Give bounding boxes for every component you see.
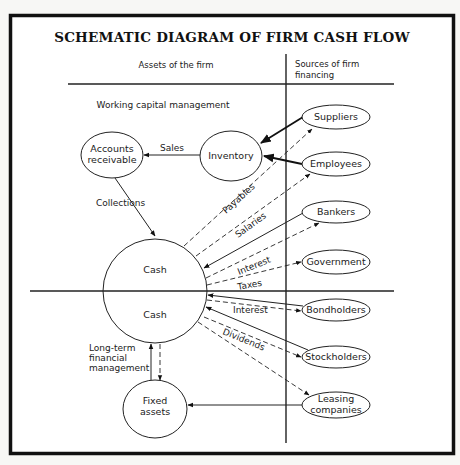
section-label-long-term-3: management: [89, 363, 150, 373]
section-label-working-capital: Working capital management: [97, 100, 230, 110]
section-label-long-term-2: financial: [89, 353, 127, 363]
node-bankers: Bankers: [302, 201, 370, 223]
column-header-sources-line2: financing: [295, 70, 334, 80]
node-label: Inventory: [208, 150, 254, 161]
diagram-title: SCHEMATIC DIAGRAM OF FIRM CASH FLOW: [54, 29, 410, 45]
node-label: receivable: [87, 154, 136, 165]
diagram-frame: [11, 16, 454, 454]
node-label: Suppliers: [314, 111, 358, 122]
cash-label-long-term: Cash: [143, 309, 166, 320]
column-header-sources-line1: Sources of firm: [295, 59, 359, 69]
node-label: companies: [310, 404, 362, 415]
node-bondholders: Bondholders: [302, 299, 370, 321]
node-inventory: Inventory: [200, 131, 262, 181]
node-label: Bondholders: [306, 304, 366, 315]
column-header-assets: Assets of the firm: [139, 60, 214, 70]
node-label: assets: [140, 406, 170, 417]
node-stockholders: Stockholders: [302, 346, 370, 368]
node-label: Accounts: [90, 143, 133, 154]
node-label: Bankers: [317, 206, 355, 217]
node-suppliers: Suppliers: [302, 105, 370, 129]
node-label: Employees: [310, 158, 362, 169]
edge-label-sales: Sales: [160, 143, 184, 153]
cash-flow-diagram: SCHEMATIC DIAGRAM OF FIRM CASH FLOW Asse…: [0, 0, 460, 465]
node-leasing-companies: Leasing companies: [302, 392, 370, 418]
cash-label-working: Cash: [143, 264, 166, 275]
diagram-page: SCHEMATIC DIAGRAM OF FIRM CASH FLOW Asse…: [0, 0, 460, 465]
node-label: Fixed: [143, 395, 168, 406]
node-employees: Employees: [302, 152, 370, 176]
node-label: Stockholders: [305, 351, 367, 362]
node-government: Government: [302, 250, 370, 274]
node-label: Government: [306, 256, 366, 267]
edge-label-collections: Collections: [96, 198, 146, 208]
edge-label-interest-bondholders: Interest: [233, 305, 268, 315]
node-accounts-receivable: Accounts receivable: [81, 132, 143, 178]
node-label: Leasing: [318, 393, 354, 404]
section-label-long-term-1: Long-term: [89, 343, 135, 353]
node-fixed-assets: Fixed assets: [123, 380, 187, 438]
